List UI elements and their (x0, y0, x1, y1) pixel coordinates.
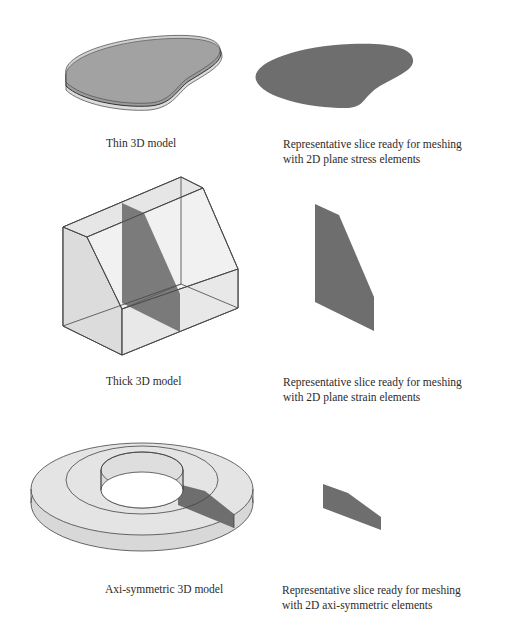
thick-3d-model (63, 177, 238, 355)
axisymmetric-slice-caption: Representative slice ready for meshing w… (282, 583, 461, 613)
axisymmetric-slice (323, 484, 381, 530)
thick-slice (315, 204, 374, 331)
thin-model-caption: Thin 3D model (106, 136, 176, 151)
thick-model-caption: Thick 3D model (106, 374, 181, 389)
axisymmetric-model-caption: Axi-symmetric 3D model (105, 582, 223, 597)
axisymmetric-3d-model (31, 443, 253, 551)
thin-3d-model (66, 35, 222, 110)
modeling-diagram (0, 0, 516, 632)
thin-slice-caption: Representative slice ready for meshing w… (283, 137, 462, 167)
thick-slice-caption: Representative slice ready for meshing w… (283, 375, 462, 405)
thin-slice (256, 44, 414, 108)
